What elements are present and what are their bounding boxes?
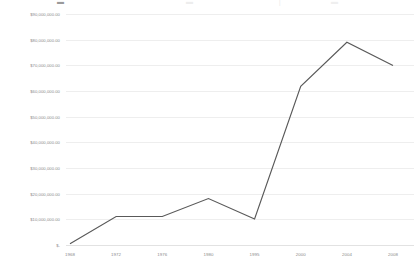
x-axis-tick-label: 2008: [388, 252, 398, 257]
y-axis-tick-label: $-: [56, 243, 60, 248]
x-axis-tick-label: 1995: [250, 252, 260, 257]
y-axis-tick-label: $50,000,000.00: [30, 115, 60, 120]
y-axis-tick-label: $30,000,000.00: [30, 166, 60, 171]
y-axis-tick-labels: $-$10,000,000.00$20,000,000.00$30,000,00…: [30, 12, 60, 248]
x-axis-tick-label: 1968: [65, 252, 75, 257]
y-axis-tick-label: $80,000,000.00: [30, 38, 60, 43]
y-axis-tick-label: $60,000,000.00: [30, 89, 60, 94]
y-axis-tick-label: $70,000,000.00: [30, 63, 60, 68]
y-axis-tick-label: $20,000,000.00: [30, 192, 60, 197]
y-axis-tick-label: $40,000,000.00: [30, 140, 60, 145]
gridlines: [66, 15, 414, 220]
x-axis-tick-label: 2000: [296, 252, 306, 257]
x-axis-tick-label: 2004: [342, 252, 352, 257]
x-axis-tick-label: 1980: [203, 252, 213, 257]
line-chart-figure: ▬ ▬ │ ▬ $-$10,000,000.00$20,000,000.00$3…: [0, 0, 418, 271]
chart-canvas: $-$10,000,000.00$20,000,000.00$30,000,00…: [0, 0, 418, 271]
y-axis-tick-label: $90,000,000.00: [30, 12, 60, 17]
x-axis-tick-labels: 19681972197619801995200020042008: [65, 252, 398, 257]
y-axis-tick-label: $10,000,000.00: [30, 217, 60, 222]
x-axis-tick-label: 1976: [157, 252, 167, 257]
x-axis-tick-label: 1972: [111, 252, 121, 257]
